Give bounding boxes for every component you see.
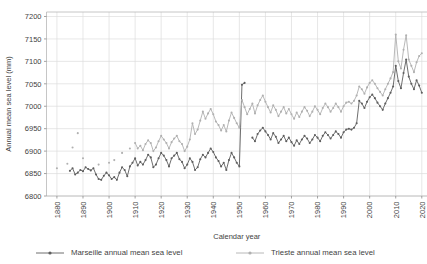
data-point — [316, 137, 318, 139]
data-point — [181, 161, 183, 163]
data-point — [267, 134, 269, 136]
data-point — [217, 160, 219, 162]
data-point — [238, 165, 240, 167]
data-point — [330, 138, 332, 140]
data-point — [244, 82, 246, 84]
data-point — [376, 87, 378, 89]
data-point — [353, 127, 355, 129]
data-point — [330, 111, 332, 113]
x-tick-label: 2020 — [418, 202, 427, 219]
data-point — [306, 138, 308, 140]
legend-label: Marseille annual mean sea level — [71, 248, 183, 257]
data-point — [301, 138, 303, 140]
data-point — [298, 116, 300, 118]
y-tick-label: 7050 — [25, 80, 42, 89]
data-point — [296, 139, 298, 141]
data-point — [322, 107, 324, 109]
data-point — [82, 157, 84, 159]
data-point — [416, 79, 418, 81]
data-point — [408, 59, 410, 61]
data-point — [230, 152, 232, 154]
legend-item-2[interactable]: Trieste annual mean sea level — [236, 248, 375, 257]
y-tick-label: 7100 — [25, 57, 42, 66]
x-tick-label: 1980 — [313, 202, 322, 219]
data-point — [108, 174, 110, 176]
data-point — [402, 72, 404, 74]
data-point — [290, 113, 292, 115]
data-point — [350, 129, 352, 131]
data-point — [314, 134, 316, 136]
x-tick-label: 1940 — [209, 202, 218, 219]
y-tick-label: 7200 — [25, 12, 42, 21]
data-point — [111, 178, 113, 180]
data-point — [324, 103, 326, 105]
chart-title-clipped — [0, 0, 427, 4]
data-point — [392, 71, 394, 73]
data-point — [197, 166, 199, 168]
data-point — [144, 143, 146, 145]
data-point — [217, 124, 219, 126]
legend-item-1[interactable]: Marseille annual mean sea level — [36, 248, 183, 257]
data-point — [158, 140, 160, 142]
data-point — [337, 133, 339, 135]
data-point — [228, 159, 230, 161]
data-point — [397, 60, 399, 62]
data-point — [152, 150, 154, 152]
data-point — [178, 158, 180, 160]
data-point — [168, 147, 170, 149]
data-point — [238, 127, 240, 129]
data-point — [392, 85, 394, 87]
data-point — [251, 103, 253, 105]
y-tick-label: 6900 — [25, 147, 42, 156]
data-point — [189, 157, 191, 159]
data-point — [290, 141, 292, 143]
data-point — [233, 156, 235, 158]
data-point — [210, 108, 212, 110]
data-point — [103, 175, 105, 177]
data-point — [181, 143, 183, 145]
x-tick-label: 1930 — [183, 202, 192, 219]
data-point — [150, 142, 152, 144]
data-point — [116, 179, 118, 181]
data-point — [418, 55, 420, 57]
data-point — [241, 84, 243, 86]
data-point — [186, 164, 188, 166]
data-point — [283, 106, 285, 108]
data-point — [199, 120, 201, 122]
data-point — [165, 159, 167, 161]
data-point — [137, 147, 139, 149]
data-point — [251, 137, 253, 139]
data-point — [332, 134, 334, 136]
data-point — [410, 83, 412, 85]
data-point — [384, 103, 386, 105]
data-point — [225, 130, 227, 132]
data-point — [223, 124, 225, 126]
data-point — [257, 133, 259, 135]
data-point — [199, 158, 201, 160]
data-point — [395, 65, 397, 67]
y-tick-label: 6850 — [25, 169, 42, 178]
data-point — [327, 134, 329, 136]
data-point — [296, 111, 298, 113]
data-point — [215, 120, 217, 122]
data-point — [275, 109, 277, 111]
data-point — [246, 113, 248, 115]
data-point — [173, 155, 175, 157]
data-point — [139, 161, 141, 163]
data-point — [314, 105, 316, 107]
data-point — [147, 139, 149, 141]
y-axis-label-text: Annual mean sea level (mm) — [4, 56, 13, 152]
data-point — [66, 163, 68, 165]
data-point — [306, 110, 308, 112]
data-point — [356, 94, 358, 96]
data-point — [350, 103, 352, 105]
data-point — [319, 113, 321, 115]
data-point — [366, 101, 368, 103]
data-point — [212, 113, 214, 115]
data-point — [113, 159, 115, 161]
data-point — [173, 138, 175, 140]
data-point — [324, 131, 326, 133]
data-point — [413, 71, 415, 73]
x-tick-label: 1890 — [79, 202, 88, 219]
data-point — [160, 135, 162, 137]
